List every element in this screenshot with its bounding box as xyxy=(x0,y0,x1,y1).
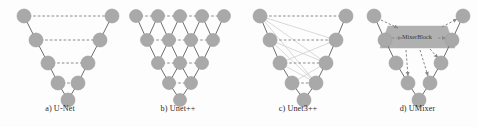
node-x31 xyxy=(185,77,198,90)
node-dec-1 xyxy=(339,9,353,23)
node-enc-3 xyxy=(273,56,287,70)
node-enc-2 xyxy=(378,33,392,47)
node-enc-2 xyxy=(29,33,43,47)
node-x22 xyxy=(196,57,209,70)
node-dec-4 xyxy=(309,76,323,90)
node-dec-1 xyxy=(105,9,119,23)
panel-unet3pp: c) Unet3++ xyxy=(238,0,358,127)
panel-caption-unet: a) U-Net xyxy=(0,104,120,113)
panel-caption-unetpp: b) Unet++ xyxy=(118,104,238,113)
arrow-mixer-to-enc4 xyxy=(406,50,408,76)
node-x02 xyxy=(174,10,187,23)
node-enc-4 xyxy=(285,76,299,90)
node-enc-1 xyxy=(17,9,31,23)
node-enc-1 xyxy=(367,9,381,23)
node-dec-2 xyxy=(93,33,107,47)
node-x30 xyxy=(163,77,176,90)
node-x00 xyxy=(130,10,143,23)
diagram-umixer: MixerBlock xyxy=(358,0,477,110)
arrow-mixer-to-dec3 xyxy=(430,49,438,58)
node-enc-4 xyxy=(51,76,65,90)
node-x01 xyxy=(152,10,165,23)
arrow-mixer-to-dec4 xyxy=(420,50,428,76)
node-x11 xyxy=(163,34,176,47)
node-dec-4 xyxy=(71,76,85,90)
node-dec-2 xyxy=(329,33,343,47)
node-dec-3 xyxy=(319,56,333,70)
node-x20 xyxy=(152,57,165,70)
node-enc-4 xyxy=(401,76,415,90)
node-dec-4 xyxy=(423,76,437,90)
mixer-block-label: MixerBlock xyxy=(402,33,433,40)
node-dec-1 xyxy=(456,9,470,23)
diagram-unet3pp xyxy=(238,0,358,110)
node-x13 xyxy=(207,34,220,47)
node-x12 xyxy=(185,34,198,47)
node-x04 xyxy=(218,10,231,23)
panel-caption-umixer: d) UMixer xyxy=(358,104,477,113)
node-x03 xyxy=(196,10,209,23)
node-enc-1 xyxy=(253,9,267,23)
diagram-unet xyxy=(0,0,120,110)
node-enc-3 xyxy=(389,56,403,70)
node-x21 xyxy=(174,57,187,70)
panel-unet: a) U-Net xyxy=(0,0,120,127)
figure-root: a) U-Netb) Unet++c) Unet3++MixerBlockd) … xyxy=(0,0,477,127)
panel-umixer: MixerBlockd) UMixer xyxy=(358,0,477,127)
node-dec-3 xyxy=(81,56,95,70)
diagram-unetpp xyxy=(118,0,238,110)
node-dec-3 xyxy=(434,56,448,70)
node-dec-2 xyxy=(445,33,459,47)
node-x10 xyxy=(141,34,154,47)
node-enc-3 xyxy=(41,56,55,70)
panel-unetpp: b) Unet++ xyxy=(118,0,238,127)
panel-caption-unet3pp: c) Unet3++ xyxy=(238,104,358,113)
node-enc-2 xyxy=(263,33,277,47)
